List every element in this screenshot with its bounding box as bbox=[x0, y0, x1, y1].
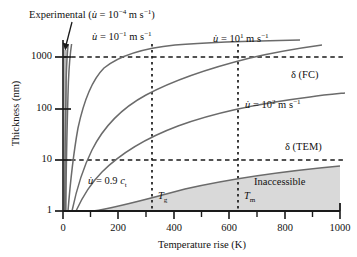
units-1: m s bbox=[127, 31, 145, 42]
x-axis-title: Temperature rise (K) bbox=[110, 240, 294, 251]
eq-1: = 10 bbox=[97, 31, 119, 42]
tg-label: Tg bbox=[158, 191, 167, 202]
units-exponent-2: −1 bbox=[261, 32, 269, 40]
xtick-label-1000: 1000 bbox=[320, 223, 357, 234]
ytick-label-10: 10 bbox=[20, 154, 52, 165]
experimental-text: Experimental ( bbox=[29, 9, 92, 20]
tm-subscript: m bbox=[250, 196, 256, 204]
units-2: m s bbox=[243, 33, 261, 44]
xtick-label-200: 200 bbox=[98, 223, 138, 234]
curve-label-1e1: u̇ = 101 m s−1 bbox=[213, 34, 269, 45]
eq-3: = 10 bbox=[250, 99, 272, 110]
experimental-close-paren: ) bbox=[151, 9, 155, 20]
experimental-units: m s bbox=[126, 9, 144, 20]
figure-root: Experimental (u̇ = 10−4 m s−1) u̇ = 10−1… bbox=[0, 0, 357, 257]
xtick-label-0: 0 bbox=[43, 223, 83, 234]
tm-label: Tm bbox=[244, 191, 255, 202]
xtick-label-600: 600 bbox=[209, 223, 249, 234]
inaccessible-label: Inaccessible bbox=[254, 177, 305, 188]
xtick-label-400: 400 bbox=[154, 223, 194, 234]
curve-label-1e2: u̇ = 102 m s−1 bbox=[245, 100, 301, 111]
units-exponent-3: −1 bbox=[293, 98, 301, 106]
curve-label-09ct: u̇ = 0.9 ct bbox=[88, 176, 127, 187]
delta-tem-label: δ (TEM) bbox=[285, 142, 322, 153]
ytick-label-1: 1 bbox=[20, 205, 52, 216]
units-exponent-1: −1 bbox=[144, 30, 152, 38]
eq-2: = 10 bbox=[218, 33, 240, 44]
units-3: m s bbox=[275, 99, 293, 110]
tg-subscript: g bbox=[164, 196, 168, 204]
ct-subscript: t bbox=[125, 181, 127, 189]
experimental-annotation: Experimental (u̇ = 10−4 m s−1) bbox=[29, 10, 155, 21]
delta-fc-label: δ (FC) bbox=[291, 70, 318, 81]
ytick-label-1000: 1000 bbox=[20, 51, 52, 62]
ytick-label-100: 100 bbox=[20, 103, 52, 114]
ct-eq: = 0.9 bbox=[93, 175, 120, 186]
y-axis-title: Thickness (nm) bbox=[10, 68, 21, 160]
experimental-eq: = 10 bbox=[97, 9, 119, 20]
exponent-1: −1 bbox=[119, 30, 127, 38]
chart-canvas bbox=[0, 0, 357, 257]
xtick-label-800: 800 bbox=[265, 223, 305, 234]
curve-label-1e-1: u̇ = 10−1 m s−1 bbox=[92, 32, 152, 43]
inaccessible-region bbox=[93, 166, 340, 211]
experimental-arrow-shaft bbox=[66, 22, 72, 46]
